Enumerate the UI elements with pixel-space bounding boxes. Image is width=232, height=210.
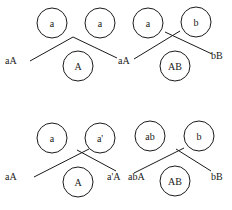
svg-text:A: A: [74, 177, 82, 188]
bottom-right-strand-line-1: [134, 148, 184, 173]
circle-bottom-a-prime: a': [85, 123, 115, 153]
circle-top-a2: a: [85, 8, 115, 38]
label-bottom-a-prime-A: a'A: [107, 171, 121, 182]
svg-text:b: b: [194, 17, 199, 28]
svg-text:AB: AB: [168, 61, 182, 72]
recombination-diagram: a a a b A AB aA aA bB a: [0, 0, 232, 210]
circle-bottom-b: b: [184, 121, 214, 151]
circle-bottom-ab: ab: [135, 121, 165, 151]
svg-text:A: A: [74, 61, 82, 72]
svg-text:AB: AB: [168, 176, 182, 187]
svg-text:ab: ab: [145, 131, 154, 142]
circle-top-a3: a: [133, 8, 163, 38]
label-bottom-aA: aA: [5, 171, 17, 182]
svg-text:a: a: [98, 18, 103, 29]
bottom-left-strand-line-1: [34, 149, 89, 177]
circle-top-AB: AB: [160, 51, 190, 81]
circle-top-A: A: [63, 51, 93, 81]
circle-bottom-A: A: [63, 167, 93, 197]
label-top-aA-left: aA: [5, 55, 17, 66]
label-top-aA-right: aA: [118, 55, 130, 66]
svg-text:a: a: [50, 18, 55, 29]
svg-text:a: a: [146, 18, 151, 29]
top-left-strand-line: [30, 37, 117, 61]
label-bottom-bB: bB: [211, 171, 223, 182]
svg-text:a': a': [97, 133, 103, 144]
label-bottom-abA: abA: [128, 171, 145, 182]
top-panel: a a a b A AB aA aA bB: [5, 7, 223, 81]
svg-text:a: a: [50, 133, 55, 144]
circle-top-b: b: [181, 7, 211, 37]
svg-text:b: b: [197, 131, 202, 142]
circle-top-a1: a: [37, 8, 67, 38]
circle-bottom-AB: AB: [160, 166, 190, 196]
circle-bottom-a: a: [37, 123, 67, 153]
bottom-panel: a a' ab b A AB aA a'A abA bB: [5, 121, 223, 197]
label-top-bB: bB: [211, 50, 223, 61]
